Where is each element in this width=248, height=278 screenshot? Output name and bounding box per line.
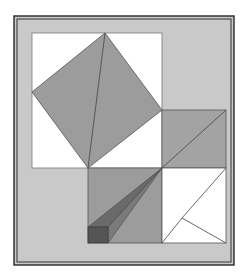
pythagoras-diagram [0, 0, 248, 278]
dark-box-front [88, 227, 108, 243]
